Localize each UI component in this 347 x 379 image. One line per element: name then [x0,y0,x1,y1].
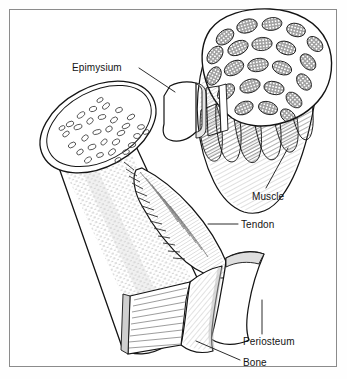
label-periosteum: Periosteum [243,337,295,347]
epimysium-outer-sheet [163,82,196,141]
epimysium-inner-face [206,86,221,136]
label-muscle: Muscle [252,192,284,202]
label-tendon: Tendon [241,220,274,230]
label-epimysium: Epimysium [72,63,122,73]
epimysium-underlayer [219,84,228,132]
figure-page: Epimysium Muscle Tendon Periosteum Bone [0,0,347,379]
label-bone: Bone [243,358,267,368]
exposed-bone-cut-edge [121,294,130,354]
anatomy-illustration [0,0,347,379]
